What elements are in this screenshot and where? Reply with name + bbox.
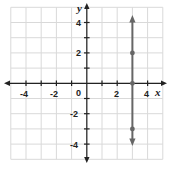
origin-label: 0 — [76, 88, 81, 98]
x-tick-label: -4 — [20, 89, 28, 99]
x-tick-label: -2 — [50, 89, 58, 99]
y-axis-arrow-down-icon — [84, 157, 89, 163]
line-arrow-up-icon — [129, 15, 135, 23]
point-3-0 — [130, 81, 135, 86]
y-tick-label: -2 — [70, 109, 78, 119]
y-tick-label: 2 — [76, 48, 81, 58]
line-x-equals-3 — [129, 15, 135, 146]
line-arrow-down-icon — [129, 139, 135, 147]
y-tick-label: 4 — [76, 18, 81, 28]
x-axis — [7, 81, 164, 87]
point-3-neg3 — [130, 126, 135, 131]
y-axis-label: y — [75, 2, 82, 14]
x-axis-arrow-left-icon — [4, 81, 10, 86]
x-axis-arrow-right-icon — [161, 81, 167, 86]
x-tick-label: 4 — [144, 89, 149, 99]
x-tick-label: 2 — [114, 89, 119, 99]
x-axis-label: x — [154, 86, 161, 98]
y-axis-arrow-up-icon — [84, 3, 89, 9]
y-tick-label: -4 — [70, 140, 78, 150]
point-3-2 — [130, 51, 135, 56]
coordinate-plane: -4 -2 0 2 4 x 4 2 -2 -4 y — [0, 0, 173, 169]
